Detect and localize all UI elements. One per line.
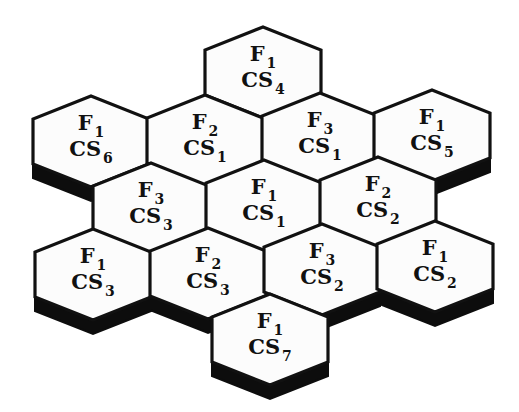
frequency-label: F2 [163, 244, 253, 270]
cell-site-label: CS3 [106, 205, 196, 226]
frequency-prefix: F [419, 104, 434, 129]
cell-site-label: CS7 [225, 336, 315, 357]
cell-site-label: CS1 [219, 202, 309, 223]
cell-site-label: CS3 [48, 271, 138, 292]
frequency-prefix: F [80, 243, 95, 268]
cell-site-label: CS5 [387, 132, 477, 153]
cell-label-c12: F1 CS2 [390, 237, 480, 284]
frequency-subscript: 2 [212, 256, 222, 272]
frequency-label: F1 [46, 112, 136, 138]
frequency-label: F3 [106, 179, 196, 205]
cell-label-c1: F1 CS4 [218, 43, 308, 90]
frequency-subscript: 1 [97, 257, 107, 273]
frequency-label: F2 [160, 111, 250, 137]
cell-site-subscript: 2 [334, 278, 344, 294]
frequency-subscript: 3 [326, 252, 336, 268]
cell-label-c13: F1 CS7 [225, 310, 315, 357]
cell-site-label: CS1 [275, 135, 365, 156]
frequency-prefix: F [365, 171, 380, 196]
cell-label-c2: F1 CS6 [46, 112, 136, 159]
frequency-label: F3 [277, 240, 367, 266]
hex-cell-diagram: F1 CS4 F1 CS6 F2 CS1 F3 CS1 F1 CS5 F3 CS… [0, 0, 519, 412]
frequency-subscript: 1 [267, 55, 277, 71]
cell-site-label: CS6 [46, 138, 136, 159]
cell-site-subscript: 1 [332, 147, 342, 163]
cell-site-subscript: 5 [444, 144, 454, 160]
cell-label-c4: F3 CS1 [275, 109, 365, 156]
frequency-label: F1 [225, 310, 315, 336]
cell-site-subscript: 3 [220, 282, 230, 298]
cell-site-subscript: 3 [105, 283, 115, 299]
cell-site-label: CS4 [218, 69, 308, 90]
cell-site-subscript: 4 [275, 81, 285, 97]
frequency-label: F2 [333, 173, 423, 199]
frequency-subscript: 2 [209, 123, 219, 139]
cell-label-c9: F1 CS3 [48, 245, 138, 292]
cell-site-label: CS2 [390, 263, 480, 284]
frequency-prefix: F [309, 238, 324, 263]
frequency-subscript: 1 [439, 249, 449, 265]
frequency-subscript: 2 [382, 185, 392, 201]
frequency-label: F1 [48, 245, 138, 271]
frequency-prefix: F [78, 110, 93, 135]
cell-site-subscript: 3 [163, 217, 173, 233]
frequency-label: F1 [387, 106, 477, 132]
frequency-prefix: F [307, 107, 322, 132]
cell-site-subscript: 2 [390, 211, 400, 227]
frequency-label: F1 [390, 237, 480, 263]
cell-site-label: CS2 [333, 199, 423, 220]
frequency-subscript: 3 [155, 191, 165, 207]
frequency-prefix: F [138, 177, 153, 202]
frequency-subscript: 1 [436, 118, 446, 134]
cell-label-c5: F1 CS5 [387, 106, 477, 153]
cell-site-subscript: 2 [447, 275, 457, 291]
frequency-prefix: F [250, 41, 265, 66]
cell-label-c10: F2 CS3 [163, 244, 253, 291]
frequency-subscript: 1 [274, 322, 284, 338]
cell-site-label: CS1 [160, 137, 250, 158]
cell-label-c7: F1 CS1 [219, 176, 309, 223]
cell-label-c11: F3 CS2 [277, 240, 367, 287]
frequency-prefix: F [192, 109, 207, 134]
frequency-prefix: F [257, 308, 272, 333]
cell-site-subscript: 1 [276, 214, 286, 230]
frequency-prefix: F [195, 242, 210, 267]
frequency-subscript: 1 [95, 124, 105, 140]
cell-label-c6: F3 CS3 [106, 179, 196, 226]
frequency-label: F1 [218, 43, 308, 69]
frequency-prefix: F [422, 235, 437, 260]
cell-site-subscript: 6 [103, 150, 113, 166]
cell-label-c3: F2 CS1 [160, 111, 250, 158]
cell-site-subscript: 1 [217, 149, 227, 165]
frequency-label: F1 [219, 176, 309, 202]
frequency-prefix: F [251, 174, 266, 199]
cell-site-label: CS3 [163, 270, 253, 291]
frequency-subscript: 3 [324, 121, 334, 137]
cell-site-label: CS2 [277, 266, 367, 287]
frequency-subscript: 1 [268, 188, 278, 204]
cell-label-c8: F2 CS2 [333, 173, 423, 220]
cell-site-subscript: 7 [282, 348, 292, 364]
frequency-label: F3 [275, 109, 365, 135]
